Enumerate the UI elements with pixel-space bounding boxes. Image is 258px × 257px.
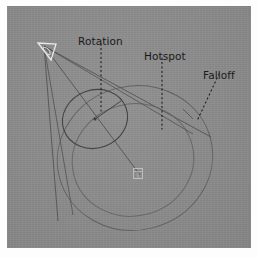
light-axis-line [44, 46, 140, 175]
label-falloff: Falloff [203, 69, 235, 81]
leader-line-falloff [197, 74, 219, 121]
spot-light-source-icon[interactable] [38, 43, 56, 60]
light-target-icon[interactable] [134, 169, 143, 179]
viewport-panel[interactable]: Rotation Hotspot Falloff [7, 6, 251, 248]
spotlight-gizmo[interactable] [7, 6, 251, 248]
rotation-ring[interactable] [54, 80, 136, 157]
label-hotspot: Hotspot [144, 50, 186, 62]
screenshot-root: Rotation Hotspot Falloff [0, 0, 258, 257]
label-rotation: Rotation [78, 35, 123, 47]
